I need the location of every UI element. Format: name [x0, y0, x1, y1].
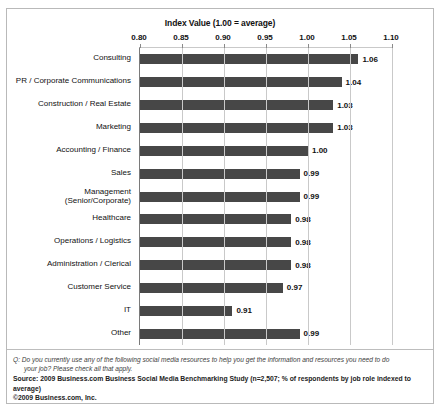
category-label: Consulting: [93, 54, 131, 64]
bar: [140, 283, 283, 293]
category-label: Sales: [111, 168, 131, 178]
category-label: IT: [124, 305, 131, 315]
category-label: Healthcare: [92, 214, 131, 224]
x-tick-label: 1.05: [341, 33, 357, 42]
bar: [140, 169, 300, 179]
bar: [140, 214, 291, 224]
x-tick-label: 0.85: [173, 33, 189, 42]
bar: [140, 123, 333, 133]
bar-value-label: 1.04: [346, 78, 362, 87]
bar: [140, 192, 300, 202]
bar-value-label: 0.97: [287, 283, 303, 292]
footnote-source: Source: 2009 Business.com Business Socia…: [13, 374, 427, 393]
gridline: [224, 48, 225, 345]
footnote-question: Q: Do you currently use any of the follo…: [13, 356, 427, 373]
x-tick-label: 0.80: [131, 33, 147, 42]
chart-title: Index Value (1.00 = average): [7, 18, 433, 28]
bar: [140, 54, 358, 64]
x-tick-label: 1.00: [299, 33, 315, 42]
category-label: Construction / Real Estate: [38, 99, 131, 109]
bar-value-label: 0.99: [304, 169, 320, 178]
category-label: Other: [111, 328, 131, 338]
bar: [140, 329, 300, 339]
bar: [140, 306, 232, 316]
bar-value-label: 0.99: [304, 192, 320, 201]
x-tick-label: 0.95: [257, 33, 273, 42]
category-label: PR / Corporate Communications: [16, 77, 131, 87]
category-label: Marketing: [96, 122, 131, 132]
category-label: Customer Service: [67, 282, 131, 292]
gridline: [182, 48, 183, 345]
x-tick-mark: [140, 44, 141, 48]
plot-area: 1.061.041.031.031.000.990.990.980.980.98…: [139, 47, 393, 345]
x-axis-tick-labels: 0.800.850.900.951.001.051.10: [7, 33, 433, 45]
footnote-copyright: ©2009 Business.com, Inc.: [13, 393, 427, 402]
footnote-question-line1: Q: Do you currently use any of the follo…: [13, 356, 389, 363]
bar: [140, 260, 291, 270]
footnote-question-line2: your job? Please check all that apply.: [24, 365, 427, 374]
bar: [140, 237, 291, 247]
bar-value-label: 0.99: [304, 329, 320, 338]
bar-value-label: 1.00: [312, 146, 328, 155]
bar: [140, 100, 333, 110]
category-label: Administration / Clerical: [47, 259, 131, 269]
category-label: Management(Senior/Corporate): [65, 186, 131, 205]
y-axis-category-labels: ConsultingPR / Corporate CommunicationsC…: [7, 47, 135, 344]
gridline: [308, 48, 309, 345]
gridline: [266, 48, 267, 345]
chart-figure: Index Value (1.00 = average) 0.800.850.9…: [6, 8, 434, 404]
x-tick-label: 0.90: [215, 33, 231, 42]
category-label: Accounting / Finance: [56, 145, 131, 155]
x-tick-label: 1.10: [383, 33, 399, 42]
bar-value-label: 0.91: [236, 306, 252, 315]
bar-value-label: 1.06: [362, 55, 378, 64]
footnote-divider: [7, 349, 433, 350]
gridline: [350, 48, 351, 345]
category-label: Operations / Logistics: [54, 236, 131, 246]
footnote: Q: Do you currently use any of the follo…: [13, 356, 427, 402]
bar: [140, 77, 342, 87]
gridline: [392, 48, 393, 345]
